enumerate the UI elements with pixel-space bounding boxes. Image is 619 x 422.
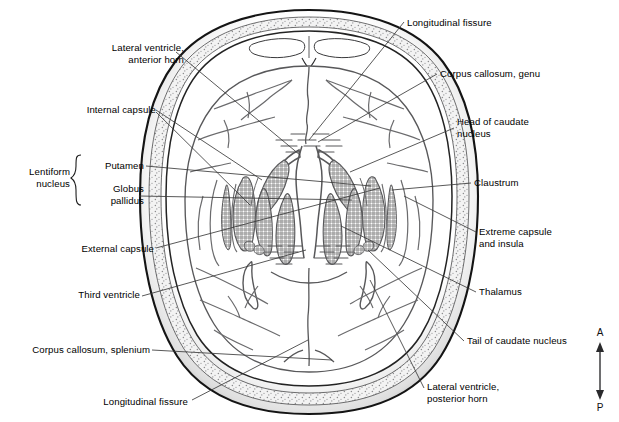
label-corpus-callosum-splenium: Corpus callosum, splenium [8,344,150,356]
figure-canvas: Lateral ventricle,anterior horn Longitud… [0,0,619,422]
label-lateral-ventricle-posterior-horn: Lateral ventricle,posterior horn [427,381,499,404]
label-internal-capsule: Internal capsule [70,104,156,116]
tail-of-caudate-nucleus-right [354,245,364,254]
orientation-label-anterior: A [593,327,607,338]
label-external-capsule: External capsule [44,243,154,255]
label-third-ventricle: Third ventricle [52,289,140,301]
label-thalamus: Thalamus [479,286,522,298]
orientation-arrow [596,342,604,400]
label-head-of-caudate-nucleus: Head of caudatenucleus [457,116,529,139]
lentiform-nucleus-brace [71,155,81,205]
label-longitudinal-fissure-posterior: Longitudinal fissure [80,396,188,408]
label-lentiform-nucleus: Lentiformnucleus [14,166,70,189]
label-lateral-ventricle-anterior-horn: Lateral ventricle,anterior horn [88,42,184,65]
label-globus-pallidus: Globuspallidus [86,183,144,206]
cerebrum-group [185,66,433,372]
tail-of-caudate-nucleus-left [254,245,264,254]
label-longitudinal-fissure-anterior: Longitudinal fissure [407,17,492,29]
label-tail-of-caudate-nucleus: Tail of caudate nucleus [467,335,567,347]
label-putamen: Putamen [86,160,144,172]
label-corpus-callosum-genu: Corpus callosum, genu [440,68,540,80]
orientation-label-posterior: P [593,402,607,413]
label-extreme-capsule-and-insula: Extreme capsuleand insula [479,226,552,249]
label-claustrum: Claustrum [474,177,519,189]
